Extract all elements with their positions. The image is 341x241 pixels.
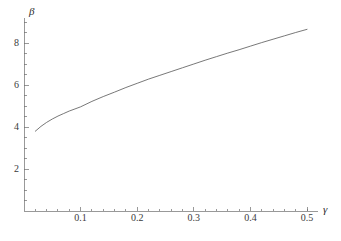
x-axis-label-gamma: γ (323, 204, 327, 215)
y-axis-label-beta: β (29, 6, 34, 17)
y-tick-label: 4 (6, 122, 19, 132)
gamma-axis (24, 207, 318, 212)
x-tick-label: 0.3 (188, 213, 201, 223)
plot-figure: β γ 0.10.20.30.40.5 2468 (0, 0, 341, 241)
x-tick-label: 0.2 (131, 213, 144, 223)
x-tick-label: 0.4 (244, 213, 257, 223)
data-curve (35, 29, 307, 131)
plot-canvas (0, 0, 341, 241)
x-tick-label: 0.5 (301, 213, 314, 223)
beta-axis (24, 18, 29, 211)
y-tick-label: 8 (6, 38, 19, 48)
y-tick-label: 2 (6, 164, 19, 174)
x-tick-label: 0.1 (74, 213, 87, 223)
y-tick-label: 6 (6, 80, 19, 90)
data-curve-group (35, 29, 307, 131)
